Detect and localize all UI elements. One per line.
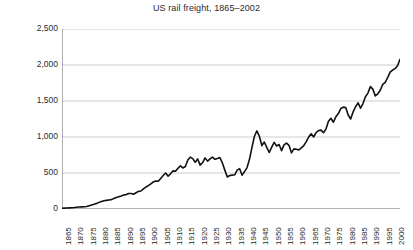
x-tick-label: 1960 bbox=[299, 227, 307, 245]
chart-title: US rail freight, 1865–2002 bbox=[0, 3, 413, 13]
x-axis-tick-labels: 1865187018751880188518901895190019051910… bbox=[62, 212, 400, 250]
line-chart-svg bbox=[62, 29, 400, 209]
x-tick-label: 1900 bbox=[151, 227, 159, 245]
x-tick-label: 1945 bbox=[262, 227, 270, 245]
chart-container: US rail freight, 1865–2002 Billion t-km … bbox=[0, 0, 413, 250]
x-tick-label: 1975 bbox=[336, 227, 344, 245]
y-tick-label: 500 bbox=[16, 168, 58, 177]
y-tick-label: 2,000 bbox=[16, 60, 58, 69]
plot-area bbox=[62, 29, 400, 209]
x-tick-label: 1865 bbox=[65, 227, 73, 245]
x-tick-label: 1885 bbox=[114, 227, 122, 245]
x-tick-label: 1995 bbox=[386, 227, 394, 245]
x-tick-label: 1905 bbox=[164, 227, 172, 245]
x-tick-label: 1880 bbox=[102, 227, 110, 245]
y-tick-label: 2,500 bbox=[16, 24, 58, 33]
y-tick-label: 0 bbox=[16, 204, 58, 213]
x-tick-label: 2000 bbox=[398, 227, 406, 245]
x-tick-label: 1935 bbox=[238, 227, 246, 245]
x-tick-label: 1985 bbox=[361, 227, 369, 245]
gridlines bbox=[62, 29, 400, 209]
x-tick-label: 1930 bbox=[225, 227, 233, 245]
x-tick-label: 1965 bbox=[312, 227, 320, 245]
x-tick-label: 1910 bbox=[176, 227, 184, 245]
x-tick-label: 1895 bbox=[139, 227, 147, 245]
x-tick-label: 1955 bbox=[287, 227, 295, 245]
x-tick-label: 1875 bbox=[90, 227, 98, 245]
x-tick-label: 1920 bbox=[201, 227, 209, 245]
x-tick-label: 1990 bbox=[373, 227, 381, 245]
y-tick-label: 1,500 bbox=[16, 96, 58, 105]
x-tick-label: 1915 bbox=[188, 227, 196, 245]
data-series-line bbox=[62, 59, 400, 208]
x-tick-label: 1980 bbox=[349, 227, 357, 245]
y-tick-label: 1,000 bbox=[16, 132, 58, 141]
y-axis-tick-labels: 05001,0001,5002,0002,500 bbox=[14, 0, 58, 250]
x-tick-label: 1890 bbox=[127, 227, 135, 245]
x-tick-label: 1925 bbox=[213, 227, 221, 245]
x-tick-label: 1970 bbox=[324, 227, 332, 245]
x-tick-label: 1870 bbox=[77, 227, 85, 245]
x-tick-label: 1950 bbox=[275, 227, 283, 245]
x-tick-label: 1940 bbox=[250, 227, 258, 245]
